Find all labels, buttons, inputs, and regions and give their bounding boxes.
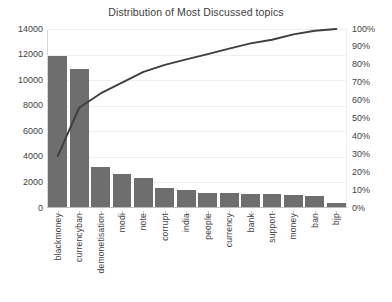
x-axis-label-slot: blackmoney (47, 211, 68, 301)
x-axis-label: bjp (331, 213, 341, 225)
x-axis-line (47, 207, 347, 208)
y-axis-tick-right: 90% (352, 42, 370, 51)
y-axis-tick-left: 12000 (18, 50, 43, 59)
x-axis-label: modi (117, 213, 127, 232)
x-axis-label-slot: corrupt (154, 211, 175, 301)
y-axis-tick-left: 8000 (23, 101, 43, 110)
x-axis-label-slot: bank (240, 211, 261, 301)
y-axis-tick-left: 2000 (23, 178, 43, 187)
y-axis-tick-right: 70% (352, 78, 370, 87)
x-axis-label: india (181, 213, 191, 232)
x-axis-label: people (203, 213, 213, 240)
x-axis-label-slot: note (133, 211, 154, 301)
y-axis-tick-right: 40% (352, 132, 370, 141)
x-axis-label: support (267, 213, 277, 243)
x-axis-label: ban (310, 213, 320, 228)
y-axis-tick-right: 10% (352, 186, 370, 195)
x-axis-label: corrupt (160, 213, 170, 241)
x-axis-label-slot: modi (111, 211, 132, 301)
x-axis-label-slot: india (176, 211, 197, 301)
y-axis-tick-right: 100% (352, 25, 375, 34)
x-axis-label: note (138, 213, 148, 230)
y-axis-tick-right: 0% (352, 204, 365, 213)
y-axis-tick-right: 20% (352, 168, 370, 177)
cumulative-line-layer (47, 29, 347, 208)
y-axis-tick-right: 50% (352, 114, 370, 123)
y-axis-tick-right: 60% (352, 96, 370, 105)
y-axis-tick-left: 6000 (23, 127, 43, 136)
x-axis-label-slot: bjp (325, 211, 346, 301)
cumulative-line (58, 29, 337, 156)
x-axis-label-slot: people (197, 211, 218, 301)
x-axis-label-slot: currency (218, 211, 239, 301)
x-axis-label-slot: demonetisation (90, 211, 111, 301)
y-axis-tick-left: 4000 (23, 152, 43, 161)
x-axis-labels: blackmoneycurrencybandemonetisationmodin… (47, 211, 347, 301)
x-axis-label-slot: money (283, 211, 304, 301)
y-axis-tick-right: 80% (352, 60, 370, 69)
y-axis-tick-left: 10000 (18, 76, 43, 85)
x-axis-label-slot: support (261, 211, 282, 301)
x-axis-label-slot: currencyban (68, 211, 89, 301)
y-axis-tick-left: 14000 (18, 25, 43, 34)
x-axis-label: blackmoney (53, 213, 63, 260)
x-axis-label: bank (246, 213, 256, 232)
x-axis-label: money (288, 213, 298, 240)
y-axis-tick-left: 0 (38, 204, 43, 213)
x-axis-label-slot: ban (304, 211, 325, 301)
x-axis-label: currency (224, 213, 234, 247)
chart-title: Distribution of Most Discussed topics (0, 6, 392, 18)
pareto-chart: Distribution of Most Discussed topics 02… (0, 0, 392, 302)
x-axis-label: demonetisation (96, 213, 106, 273)
y-axis-tick-right: 30% (352, 150, 370, 159)
plot-area (47, 29, 347, 208)
x-axis-label: currencyban (74, 213, 84, 262)
